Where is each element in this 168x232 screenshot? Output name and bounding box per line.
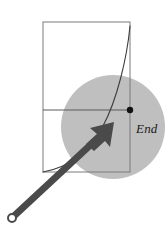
figure-canvas: End	[0, 0, 168, 232]
diagram-svg: End	[0, 0, 168, 232]
end-point-dot	[127, 107, 133, 113]
pointer-arrow-shaft	[14, 137, 99, 216]
arrow-tail-circle-shape	[8, 214, 16, 222]
end-label: End	[135, 121, 158, 136]
